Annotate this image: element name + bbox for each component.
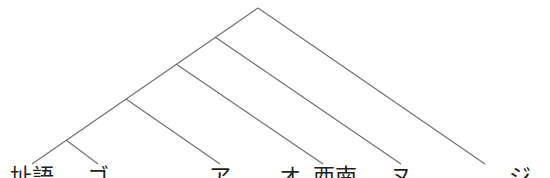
cladogram <box>0 0 550 178</box>
leaf-label-2: ゴ <box>87 166 109 178</box>
leaf-label-6: ヌ <box>390 166 412 178</box>
leaf-label-7: ジ <box>509 166 531 178</box>
leaf-label-1: 址語 <box>10 166 54 178</box>
edge-root-right <box>258 8 485 164</box>
leaf-label-5: 西南 <box>313 166 357 178</box>
leaf-label-4: オ <box>279 166 301 178</box>
leaf-label-3: ア <box>209 166 231 178</box>
edge-node4-right <box>66 140 98 164</box>
edge-node1-right <box>215 37 401 164</box>
edge-node3-right <box>126 99 220 164</box>
